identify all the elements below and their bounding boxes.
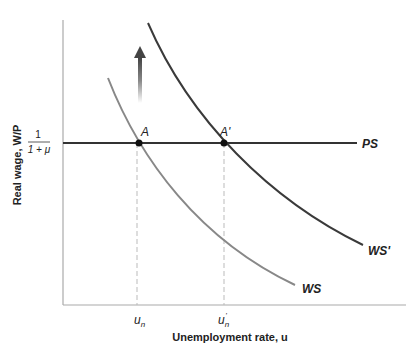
ws-prime-label: WS' bbox=[368, 244, 391, 258]
up-arrow-icon bbox=[134, 46, 146, 58]
ps-level-numerator: 1 bbox=[35, 129, 41, 140]
point-a-label: A bbox=[140, 125, 149, 139]
labor-market-diagram: A A' PS WS WS' 1 1 + μ Real wage, W/P un… bbox=[0, 0, 406, 348]
ws-prime-curve bbox=[148, 23, 363, 245]
point-a bbox=[136, 140, 143, 147]
point-a-prime bbox=[221, 140, 228, 147]
un-tick-label: un bbox=[134, 313, 146, 329]
ws-label: WS bbox=[302, 282, 321, 296]
ps-label: PS bbox=[362, 137, 378, 151]
y-axis-label: Real wage, W/P bbox=[11, 125, 23, 206]
ps-level-denominator: 1 + μ bbox=[28, 144, 51, 155]
x-axis-label: Unemployment rate, u bbox=[172, 331, 288, 343]
shift-arrow-shaft bbox=[138, 58, 142, 103]
diagram-canvas: A A' PS WS WS' 1 1 + μ Real wage, W/P un… bbox=[0, 0, 406, 348]
point-a-prime-label: A' bbox=[219, 125, 231, 139]
un-prime-tick-label: un' bbox=[218, 311, 230, 329]
